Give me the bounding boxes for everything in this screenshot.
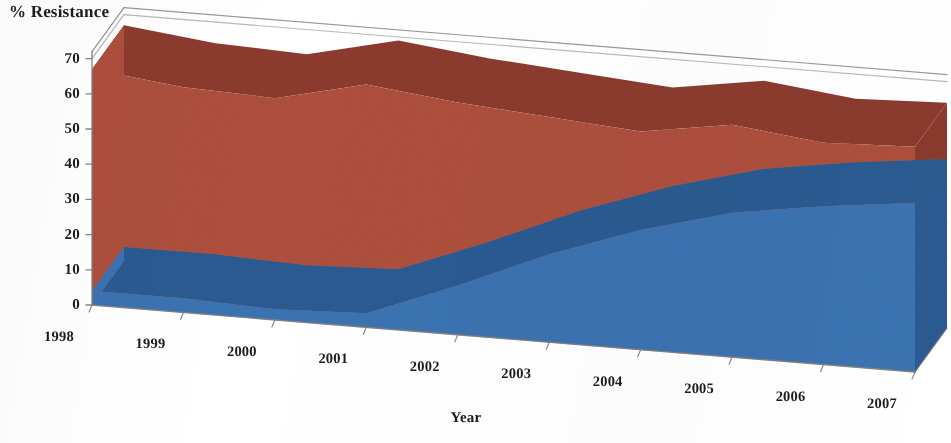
y-tick-label-0: 0	[72, 297, 80, 314]
y-tick-label-50: 50	[65, 121, 80, 138]
chart-root: % Resistance 010203040506070 19981999200…	[0, 0, 951, 443]
x-tick-label-1998: 1998	[44, 329, 74, 346]
y-tick-label-70: 70	[65, 50, 80, 67]
y-tick-label-40: 40	[65, 156, 80, 173]
y-tick-label-60: 60	[65, 85, 80, 102]
chart-title: % Resistance	[9, 2, 109, 22]
x-tick-label-2005: 2005	[684, 381, 714, 398]
x-tick-label-2002: 2002	[410, 358, 440, 375]
y-tick-label-10: 10	[65, 261, 80, 278]
x-tick-label-2006: 2006	[776, 388, 806, 405]
area-chart-3d	[0, 0, 951, 443]
x-tick-label-1999: 1999	[136, 336, 166, 353]
x-tick-label-2004: 2004	[593, 373, 623, 390]
x-tick-label-2000: 2000	[227, 343, 257, 360]
x-axis-title: Year	[451, 410, 482, 427]
x-tick-label-2001: 2001	[318, 351, 348, 368]
y-tick-label-30: 30	[65, 191, 80, 208]
y-tick-label-20: 20	[65, 226, 80, 243]
x-tick-label-2007: 2007	[867, 396, 897, 413]
x-tick-label-2003: 2003	[501, 366, 531, 383]
